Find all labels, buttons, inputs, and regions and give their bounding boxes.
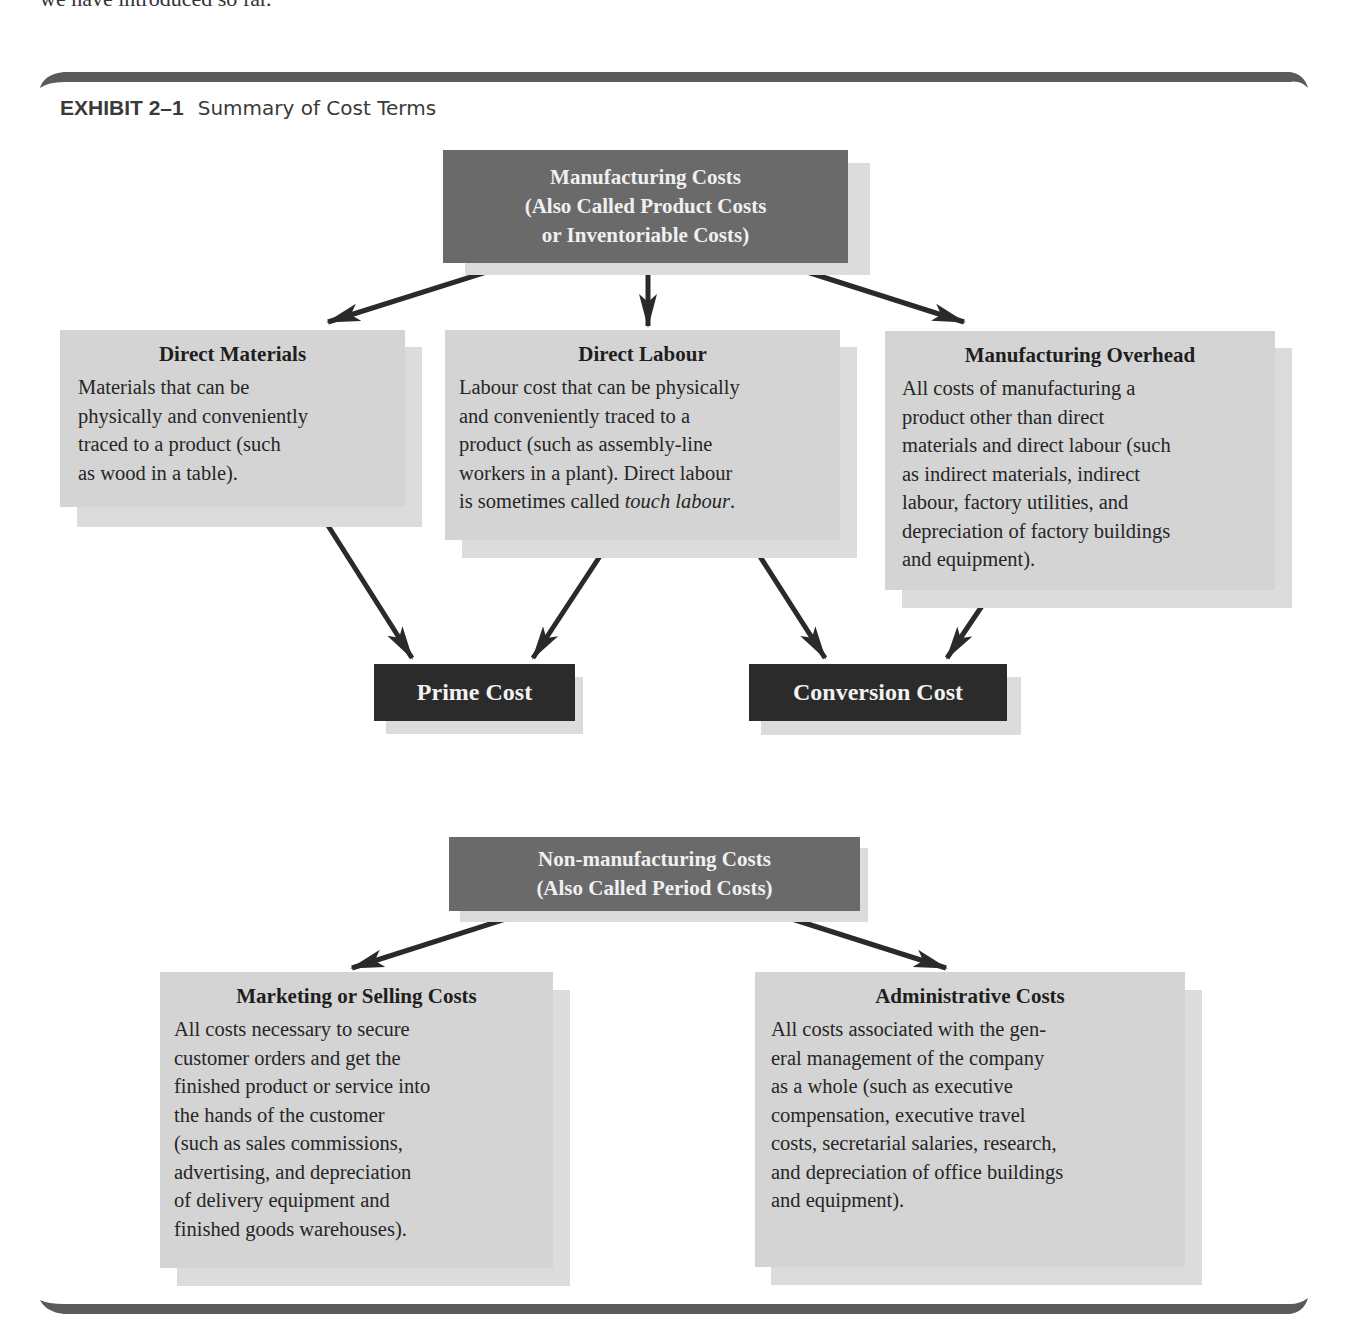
arrow-dl-to-prime	[533, 544, 608, 658]
non-manufacturing-costs-line-1: Non-manufacturing Costs	[538, 845, 771, 874]
exhibit-title: EXHIBIT 2–1Summary of Cost Terms	[60, 96, 436, 120]
direct-materials-box: Direct Materials Materials that can be p…	[60, 330, 405, 507]
manufacturing-costs-box: Manufacturing Costs (Also Called Product…	[443, 150, 848, 263]
bottom-rule	[40, 1298, 1308, 1314]
direct-labour-italic-term: touch labour	[625, 490, 730, 512]
conversion-cost-box: Conversion Cost	[749, 664, 1007, 721]
manufacturing-costs-line-1: Manufacturing Costs	[550, 163, 741, 192]
non-manufacturing-costs-line-2: (Also Called Period Costs)	[536, 874, 772, 903]
manufacturing-overhead-box: Manufacturing Overhead All costs of manu…	[885, 331, 1275, 590]
marketing-costs-heading: Marketing or Selling Costs	[160, 984, 553, 1009]
non-manufacturing-costs-box: Non-manufacturing Costs (Also Called Per…	[449, 837, 860, 911]
manufacturing-overhead-heading: Manufacturing Overhead	[885, 343, 1275, 368]
direct-labour-text-end: .	[730, 490, 735, 512]
marketing-costs-box: Marketing or Selling Costs All costs nec…	[160, 972, 553, 1268]
arrow-dl-to-conversion	[752, 544, 825, 658]
direct-labour-heading: Direct Labour	[445, 342, 840, 367]
administrative-costs-description: All costs associated with the gen- eral …	[755, 1015, 1185, 1215]
direct-labour-box: Direct Labour Labour cost that can be ph…	[445, 330, 840, 540]
direct-materials-description: Materials that can be physically and con…	[60, 373, 405, 487]
manufacturing-costs-line-3: or Inventoriable Costs)	[542, 221, 749, 250]
arrow-dm-to-prime	[320, 513, 412, 658]
manufacturing-costs-line-2: (Also Called Product Costs	[525, 192, 767, 221]
administrative-costs-box: Administrative Costs All costs associate…	[755, 972, 1185, 1267]
exhibit-caption: Summary of Cost Terms	[198, 96, 436, 120]
conversion-cost-label: Conversion Cost	[793, 679, 963, 706]
prime-cost-label: Prime Cost	[417, 679, 532, 706]
exhibit-number: EXHIBIT 2–1	[60, 96, 184, 119]
top-rule	[40, 72, 1308, 88]
direct-labour-description: Labour cost that can be physically and c…	[445, 373, 840, 516]
administrative-costs-heading: Administrative Costs	[755, 984, 1185, 1009]
manufacturing-overhead-description: All costs of manufacturing a product oth…	[885, 374, 1275, 574]
direct-materials-heading: Direct Materials	[60, 342, 405, 367]
prime-cost-box: Prime Cost	[374, 664, 575, 721]
intro-text-fragment: we have introduced so far.	[40, 0, 272, 12]
marketing-costs-description: All costs necessary to secure customer o…	[160, 1015, 553, 1243]
